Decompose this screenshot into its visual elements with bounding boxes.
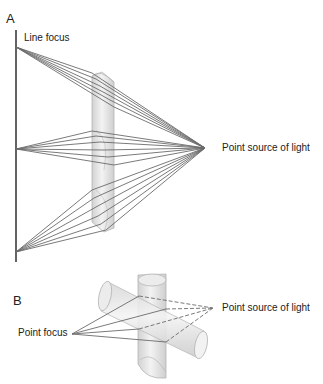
panel-b <box>72 274 213 378</box>
optics-diagram <box>0 0 323 384</box>
panel-a <box>16 30 205 262</box>
